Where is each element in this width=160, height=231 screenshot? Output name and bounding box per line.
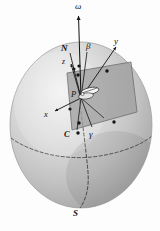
diagram-canvas — [0, 0, 160, 231]
label-y-axis: y — [114, 37, 118, 46]
marker-plane-corner-ur — [105, 69, 108, 72]
marker-node-n — [77, 64, 80, 67]
physics-sphere-diagram: ω N β z y x P C γ S — [0, 0, 160, 231]
label-omega: ω — [75, 2, 81, 11]
label-x-axis: x — [44, 110, 48, 119]
marker-plane-corner-lr — [112, 120, 115, 123]
label-z-axis: z — [62, 58, 65, 66]
marker-point-c — [76, 131, 79, 134]
marker-node-z — [73, 68, 76, 71]
label-point-p: P — [71, 90, 76, 99]
label-point-c: C — [64, 130, 70, 139]
label-north-pole: N — [61, 44, 68, 53]
label-gamma: γ — [89, 130, 93, 139]
marker-plane-corner-ul — [76, 73, 79, 76]
marker-plane-corner-ll — [77, 121, 80, 124]
marker-axis-x-tip — [68, 107, 71, 110]
label-beta: β — [86, 42, 90, 51]
label-south-pole: S — [73, 209, 78, 218]
